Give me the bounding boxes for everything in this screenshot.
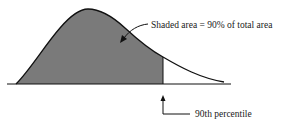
shaded-area [16, 9, 163, 84]
shaded-area-label: Shaded area = 90% of total area [151, 20, 273, 30]
density-diagram: Shaded area = 90% of total area 90th per… [0, 0, 297, 124]
arrowhead-icon [161, 95, 166, 101]
percentile-label: 90th percentile [195, 109, 252, 119]
